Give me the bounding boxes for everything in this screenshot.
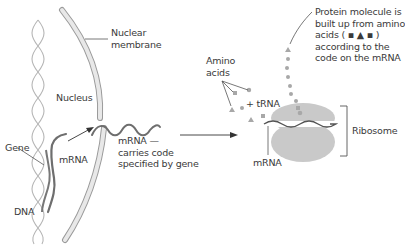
amino-acids-label: Amino acids [206,55,235,78]
trna-label: + tRNA [246,98,280,110]
label-line: Protein molecule is [315,6,405,18]
ribosome-large-subunit [271,122,335,162]
label-line: carries code [118,147,199,159]
label-line: Nuclear [111,27,161,39]
label-line: mRNA — [118,135,199,147]
mrna-ribosome-label: mRNA [253,157,282,169]
mrna-carries-code-label: mRNA — carries code specified by gene [118,135,199,170]
nuclear-membrane-label: Nuclear membrane [111,27,161,50]
label-line: code on the mRNA [315,52,405,64]
gene-label: Gene [5,142,29,154]
nucleus-label: Nucleus [56,92,92,104]
mrna-nucleus-label: mRNA [59,154,88,166]
ribosome-label: Ribosome [352,125,397,137]
protein-molecule-label: Protein molecule is built up from amino … [315,6,405,64]
ribosome-bracket [340,106,347,156]
label-line: Amino [206,55,235,67]
label-line: according to the [315,41,405,53]
label-line: membrane [111,39,161,51]
dna-label: DNA [14,206,34,218]
mrna-strand-nucleus [48,134,66,212]
label-line: built up from amino [315,18,405,30]
label-line: acids ( ▪ ▲ ▪ ) [315,29,405,41]
label-line: specified by gene [118,158,199,170]
label-line: acids [206,67,235,79]
